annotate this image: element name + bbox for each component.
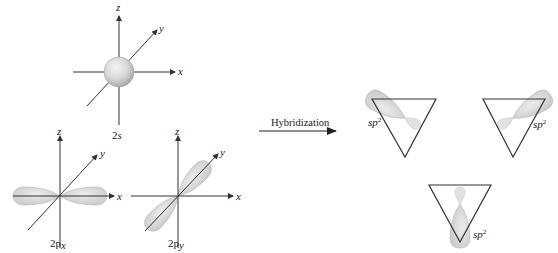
z-label: z — [115, 1, 121, 13]
orbital-label-2px: 2px — [50, 237, 66, 251]
hybridization-arrow: Hybridization — [259, 117, 336, 131]
y-label: y — [99, 147, 105, 159]
sp2-small-lobe — [455, 187, 465, 204]
sp2-label: sp2 — [473, 228, 487, 240]
x-label: x — [116, 190, 122, 202]
orbital-2s: z y x 2s — [73, 1, 183, 141]
sp2-hybrid-bottom: sp2 — [429, 185, 491, 248]
x-label: x — [177, 65, 183, 77]
y-axis — [145, 154, 218, 231]
z-label: z — [174, 125, 180, 137]
orbital-2py: z y x 2py — [131, 125, 241, 251]
sp2-label: sp2 — [533, 118, 547, 130]
sp2-hybrid-top-left: sp2 — [362, 87, 436, 157]
sp2-hybridization-diagram: z y x 2s z y x 2px z y x 2py Hybridizati… — [0, 0, 558, 253]
orbital-2px: z y x 2px — [13, 125, 122, 251]
s-orbital-sphere — [104, 57, 134, 87]
sp2-hybrid-top-right: sp2 — [483, 87, 556, 157]
orbital-label-2py: 2py — [168, 237, 184, 251]
y-label: y — [219, 146, 225, 158]
x-label: x — [235, 190, 241, 202]
arrow-label: Hybridization — [271, 117, 330, 128]
sp2-label: sp2 — [368, 116, 382, 128]
y-label: y — [158, 22, 164, 34]
sp2-large-lobe — [508, 87, 556, 127]
z-label: z — [56, 125, 62, 137]
orbital-label-2s: 2s — [112, 129, 122, 141]
sp2-small-lobe — [402, 114, 422, 131]
